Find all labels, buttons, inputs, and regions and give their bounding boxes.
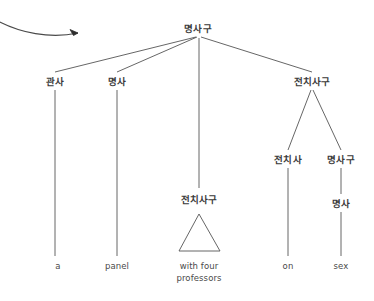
node-label-np-right: 명사구 (327, 154, 354, 165)
terminal-word-panel: panel (105, 261, 129, 272)
edge-ppright-to-npright (313, 90, 341, 150)
terminal-word-line-1: with four (180, 261, 219, 271)
node-label-root: 명사구 (184, 23, 211, 34)
terminal-word-with-four-professors: with four professors (176, 261, 221, 284)
tree-edges (55, 37, 341, 256)
node-label-det: 관사 (46, 76, 64, 87)
terminal-word-on: on (283, 261, 294, 272)
terminal-word-a: a (55, 261, 60, 272)
node-label-noun1: 명사 (108, 76, 126, 87)
edge-ppright-to-prep (288, 90, 311, 150)
terminal-word-line-2: professors (176, 272, 221, 282)
node-label-prep: 전치사 (274, 154, 301, 165)
edge-root-to-pp-right (201, 37, 312, 72)
unexpanded-constituent-triangle (179, 214, 220, 251)
node-label-noun2: 명사 (332, 198, 350, 209)
curved-arrow-annotation (0, 20, 78, 36)
edge-root-to-det (55, 37, 196, 72)
node-label-pp-mid: 전치사구 (181, 194, 217, 205)
curved-arrow-shaft (0, 20, 78, 35)
node-label-pp-right: 전치사구 (294, 76, 330, 87)
syntax-tree-canvas (0, 0, 374, 301)
terminal-word-sex: sex (334, 261, 349, 272)
edge-root-to-noun1 (117, 37, 197, 72)
